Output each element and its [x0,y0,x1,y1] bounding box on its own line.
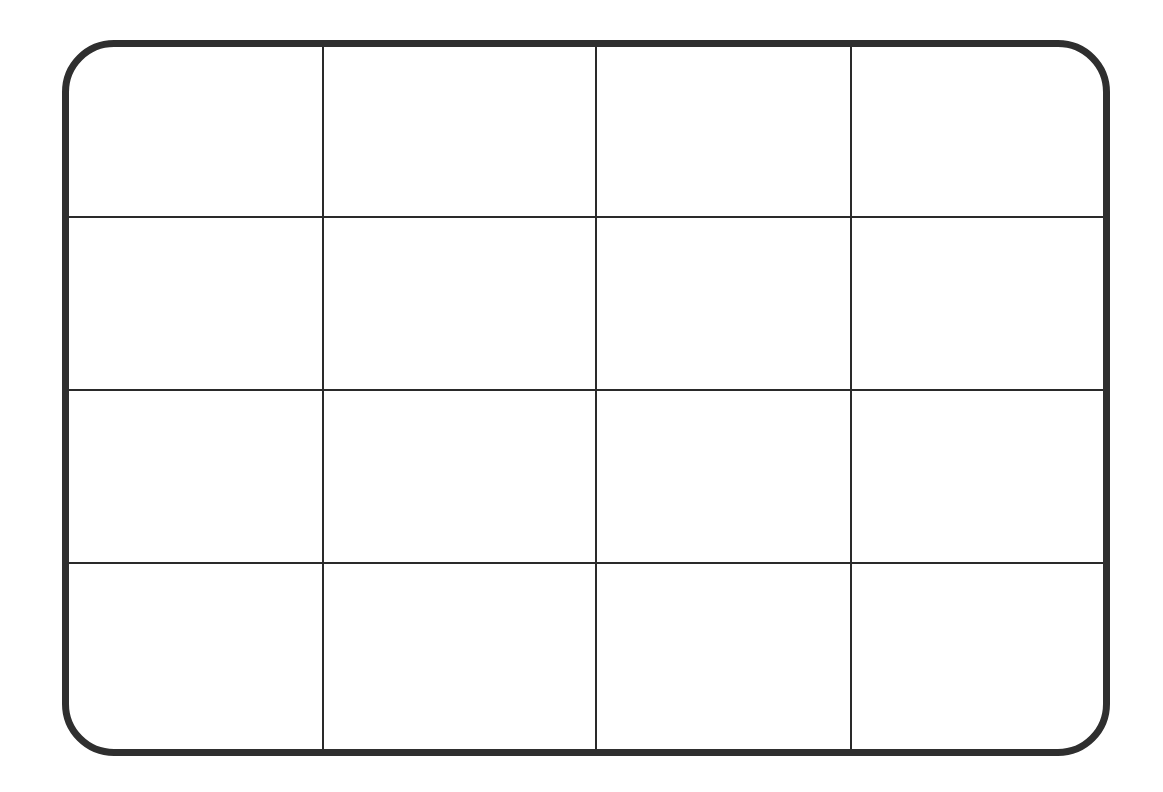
empty-grid-table [62,40,1110,756]
row-divider-2 [69,389,1103,391]
column-divider-1 [322,47,324,749]
column-divider-2 [595,47,597,749]
row-divider-3 [69,562,1103,564]
column-divider-3 [850,47,852,749]
row-divider-1 [69,216,1103,218]
